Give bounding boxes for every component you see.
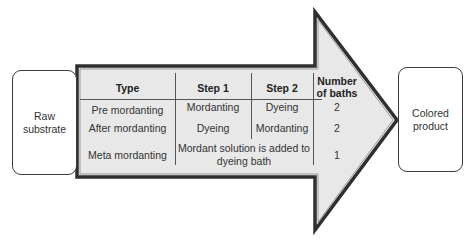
header-divider: [80, 99, 322, 100]
row2-baths: 2: [313, 122, 361, 134]
header-baths-line2: of baths: [313, 87, 361, 99]
header-type: Type: [80, 82, 175, 94]
header-baths-line1: Number: [313, 75, 361, 87]
header-step2: Step 2: [251, 82, 313, 94]
row2-step1: Dyeing: [175, 122, 251, 134]
row3-type: Meta mordanting: [80, 149, 175, 161]
header-step1: Step 1: [175, 82, 251, 94]
row2-type: After mordanting: [80, 122, 175, 134]
raw-substrate-box: Raw substrate: [12, 70, 77, 175]
row2-step2: Mordanting: [251, 122, 313, 134]
row3-merged-line1: Mordant solution is added to: [175, 142, 313, 154]
row1-baths: 2: [313, 101, 361, 113]
row3-baths: 1: [313, 149, 361, 161]
raw-label-line1: Raw: [23, 110, 66, 123]
colored-product-box: Colored product: [398, 67, 463, 172]
raw-label-line2: substrate: [23, 123, 66, 136]
row3-merged-line2: dyeing bath: [175, 155, 313, 167]
colored-label-line2: product: [412, 120, 449, 133]
row1-type: Pre mordanting: [80, 104, 175, 116]
row1-step1: Mordanting: [175, 101, 251, 113]
row1-step2: Dyeing: [251, 101, 313, 113]
colored-label-line1: Colored: [412, 107, 449, 120]
